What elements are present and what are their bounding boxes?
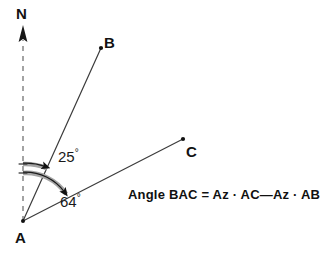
- point-b-label: B: [104, 35, 115, 50]
- diagram-canvas: [0, 0, 324, 256]
- azimuth-diagram-figure: N A B C 25° 64° Angle BAC = Az · AC—Az ·…: [0, 0, 324, 256]
- north-label: N: [16, 6, 27, 21]
- point-b-marker: [99, 46, 103, 50]
- angle-label-25: 25°: [58, 148, 79, 164]
- point-c-label: C: [186, 144, 197, 159]
- equation-annotation: Angle BAC = Az · AC—Az · AB: [128, 188, 320, 201]
- degree-symbol-64: °: [77, 192, 81, 203]
- degree-symbol-25: °: [75, 147, 79, 158]
- angle-25-value: 25: [58, 148, 75, 165]
- point-a-marker: [21, 219, 25, 223]
- angle-64-value: 64: [60, 193, 77, 210]
- angle-label-64: 64°: [60, 193, 81, 209]
- point-a-label: A: [15, 230, 26, 245]
- north-arrow-icon: [19, 25, 28, 42]
- point-c-marker: [181, 137, 185, 141]
- angle-arc-64: [23, 172, 66, 194]
